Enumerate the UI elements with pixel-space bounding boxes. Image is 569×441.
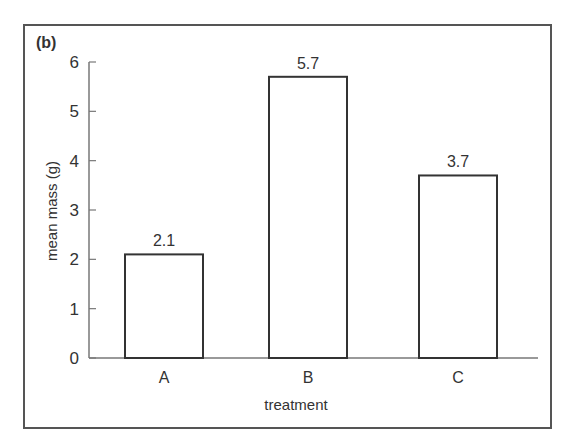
y-tick-label: 6: [70, 53, 79, 72]
y-tick-label: 0: [70, 349, 79, 368]
x-tick-label: C: [452, 369, 464, 386]
data-label: 5.7: [297, 55, 319, 72]
data-label: 3.7: [447, 153, 469, 170]
x-tick-label: B: [303, 369, 314, 386]
bar-c: [419, 175, 497, 358]
y-tick-label: 2: [70, 250, 79, 269]
y-tick-label: 3: [70, 201, 79, 220]
x-tick-label: A: [159, 369, 170, 386]
bar-chart-plot: 01234562.1A5.7B3.7C: [0, 0, 569, 441]
y-tick-label: 5: [70, 102, 79, 121]
bar-a: [125, 254, 203, 358]
data-label: 2.1: [153, 232, 175, 249]
y-tick-label: 4: [70, 152, 79, 171]
bar-b: [269, 77, 347, 358]
y-tick-label: 1: [70, 300, 79, 319]
